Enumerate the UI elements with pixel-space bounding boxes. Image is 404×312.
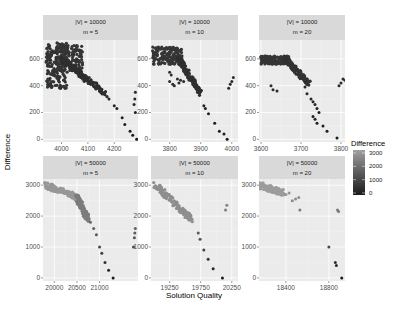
- y-tick-label: 200: [29, 108, 40, 115]
- x-tick-label: 19250: [161, 284, 179, 291]
- x-tick-label: 21000: [91, 284, 109, 291]
- y-tick-label: 1000: [26, 243, 41, 250]
- y-tick-label: 0: [144, 274, 148, 281]
- y-tick-label: 200: [245, 108, 256, 115]
- y-tick-label: 200: [137, 108, 148, 115]
- x-tick-label: 18400: [277, 284, 295, 291]
- facet-panel: |V| = 50000m = 1019250197502025001000200…: [134, 156, 242, 291]
- y-tick-label: 1000: [242, 243, 257, 250]
- x-tick-label: 3800: [162, 145, 177, 152]
- plot-background: [43, 179, 138, 281]
- y-tick-label: 2000: [242, 212, 257, 219]
- strip-label: |V| = 10000: [287, 19, 318, 25]
- facet-panel: |V| = 10000m = 103800390040000200400600: [137, 15, 239, 152]
- x-tick-label: 20000: [45, 284, 63, 291]
- legend-title: Difference: [351, 139, 385, 148]
- y-tick-label: 2000: [26, 212, 41, 219]
- y-tick-label: 0: [36, 274, 40, 281]
- legend-tick-label: 1000: [369, 177, 383, 183]
- y-tick-label: 0: [252, 274, 256, 281]
- strip-label: m = 10: [185, 170, 204, 176]
- y-tick-label: 2000: [134, 212, 149, 219]
- strip-label: m = 5: [83, 29, 99, 35]
- facet-panel: |V| = 50000m = 5200002050021000010002000…: [26, 156, 138, 291]
- y-tick-label: 3000: [26, 181, 41, 188]
- legend-tick-label: 2000: [369, 163, 383, 169]
- x-tick-label: 20500: [68, 284, 86, 291]
- legend-colorbar: [353, 150, 365, 195]
- x-tick-label: 3900: [193, 145, 208, 152]
- strip-label: |V| = 50000: [179, 160, 210, 166]
- facet-panel: |V| = 10000m = 54000410042000200400600: [29, 15, 138, 152]
- x-axis-title: Solution Quality: [166, 291, 222, 300]
- x-tick-label: 4000: [54, 145, 69, 152]
- y-axis-title: Difference: [3, 133, 12, 170]
- facet-panel: |V| = 50000m = 2018400188000100020003000: [242, 156, 345, 291]
- y-tick-label: 400: [245, 82, 256, 89]
- y-tick-label: 0: [144, 135, 148, 142]
- y-tick-label: 600: [137, 55, 148, 62]
- x-tick-label: 4000: [225, 145, 240, 152]
- y-tick-label: 600: [29, 55, 40, 62]
- x-tick-label: 3600: [254, 145, 269, 152]
- y-tick-label: 3000: [134, 181, 149, 188]
- legend-tick-label: 3000: [369, 150, 383, 156]
- plot-background: [259, 40, 345, 142]
- faceted-scatter-chart: |V| = 10000m = 54000410042000200400600|V…: [0, 0, 404, 312]
- panel-grid: |V| = 10000m = 54000410042000200400600|V…: [26, 15, 349, 291]
- plot-background: [259, 179, 345, 281]
- y-tick-label: 400: [29, 82, 40, 89]
- y-tick-label: 0: [36, 135, 40, 142]
- x-tick-label: 18800: [320, 284, 338, 291]
- y-tick-label: 600: [245, 55, 256, 62]
- x-tick-label: 20250: [223, 284, 241, 291]
- legend: Difference 0100020003000: [351, 139, 385, 196]
- facet-panel: |V| = 10000m = 203600370038000200400600: [245, 15, 348, 152]
- legend-tick-label: 0: [369, 190, 373, 196]
- x-tick-label: 3700: [294, 145, 309, 152]
- y-tick-label: 3000: [242, 181, 257, 188]
- strip-label: |V| = 10000: [75, 19, 106, 25]
- strip-label: m = 20: [293, 29, 312, 35]
- y-tick-label: 1000: [134, 243, 149, 250]
- strip-label: |V| = 50000: [287, 160, 318, 166]
- strip-label: |V| = 10000: [179, 19, 210, 25]
- strip-label: |V| = 50000: [75, 160, 106, 166]
- y-tick-label: 400: [137, 82, 148, 89]
- x-tick-label: 3800: [334, 145, 349, 152]
- strip-label: m = 10: [185, 29, 204, 35]
- y-tick-label: 0: [252, 135, 256, 142]
- strip-label: m = 20: [293, 170, 312, 176]
- strip-label: m = 5: [83, 170, 99, 176]
- x-tick-label: 4100: [81, 145, 96, 152]
- x-tick-label: 19750: [192, 284, 210, 291]
- x-tick-label: 4200: [107, 145, 122, 152]
